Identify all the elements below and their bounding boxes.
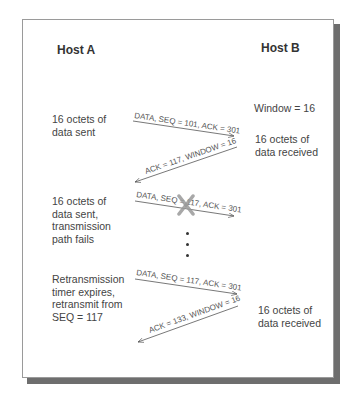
message-1-data: DATA, SEQ = 101, ACK = 301: [133, 111, 241, 136]
message-4-label: DATA, SEQ = 117, ACK = 301: [136, 268, 243, 293]
message-2-ack: ACK = 117, WINDOW = 16: [135, 136, 238, 182]
message-4-retransmit: DATA, SEQ = 117, ACK = 301: [135, 268, 243, 294]
message-2-label: ACK = 117, WINDOW = 16: [144, 136, 238, 176]
message-arrows: DATA, SEQ = 101, ACK = 301 ACK = 117, WI…: [0, 0, 360, 403]
message-3-lost-data: DATA, SEQ = 117, ACK = 301: [135, 190, 243, 216]
message-5-label: ACK = 133, WINDOW = 16: [148, 294, 242, 335]
message-5-ack: ACK = 133, WINDOW = 16: [138, 294, 242, 342]
